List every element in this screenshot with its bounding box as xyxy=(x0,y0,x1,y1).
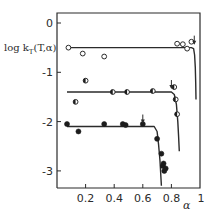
x-tick-label: 1 xyxy=(198,192,205,205)
data-point-half xyxy=(110,90,115,95)
data-point-open xyxy=(185,46,190,51)
x-tick-label: 0.8 xyxy=(163,192,181,205)
data-point-open xyxy=(66,45,71,50)
x-tick-label: 0.6 xyxy=(134,192,152,205)
data-point-half xyxy=(150,89,155,94)
x-axis-label: α xyxy=(183,199,191,212)
data-markers xyxy=(65,39,194,173)
y-tick-label: -1 xyxy=(42,66,53,79)
data-point-half xyxy=(125,90,130,95)
data-point-filled xyxy=(161,161,166,166)
y-tick-label: -2 xyxy=(42,116,53,129)
y-axis-label: log kT(T,α) xyxy=(4,42,57,56)
data-point-open xyxy=(102,54,107,59)
y-tick-label: -3 xyxy=(42,165,53,178)
data-point-half xyxy=(83,78,88,83)
data-point-filled xyxy=(76,129,81,134)
x-tick-label: 0.4 xyxy=(105,192,123,205)
data-point-filled xyxy=(159,151,164,156)
data-point-filled xyxy=(102,122,107,127)
data-point-filled xyxy=(163,166,168,171)
x-tick-label: 0.2 xyxy=(77,192,95,205)
data-point-open xyxy=(180,42,185,47)
data-point-half xyxy=(173,97,178,102)
data-point-half xyxy=(73,99,78,104)
plot-frame xyxy=(57,13,200,188)
data-point-half xyxy=(175,112,180,117)
chart: 0.20.40.60.810-1-2-3 log kT(T,α) α xyxy=(0,0,216,215)
data-point-open xyxy=(80,51,85,56)
y-tick-label: 0 xyxy=(46,17,53,30)
data-point-filled xyxy=(123,123,128,128)
data-point-open xyxy=(175,41,180,46)
data-point-filled xyxy=(65,122,70,127)
data-point-filled xyxy=(155,136,160,141)
fit-curve xyxy=(67,127,161,186)
